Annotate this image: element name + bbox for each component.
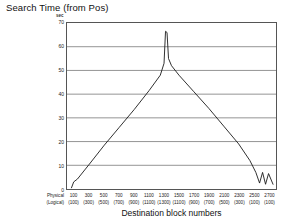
x-tick-logical: (300) [234,199,245,206]
x-tick-physical: 1100 [142,192,155,199]
x-tick-label: 100(100) [68,192,79,206]
x-tick-label: 1500(1100) [173,192,186,206]
x-tick-logical: (700) [113,199,124,206]
x-tick-logical: (100) [68,199,79,206]
x-tick-label: 300(300) [83,192,94,206]
y-axis-tick-labels: 010203040506070 [48,22,64,190]
x-axis-tick-labels: 100(100)300(300)500(500)700(700)900(900)… [66,192,277,208]
x-tick-label: 500(500) [98,192,109,206]
axis-row-header: Physical [8,192,64,199]
x-tick-label: 900(900) [128,192,139,206]
x-tick-logical: (1100) [173,199,186,206]
x-tick-physical: 2700 [264,192,275,199]
y-tick-label: 50 [50,67,64,73]
x-tick-physical: 100 [68,192,79,199]
x-tick-physical: 700 [113,192,124,199]
x-tick-label: 1700(900) [189,192,200,206]
x-tick-label: 700(700) [113,192,124,206]
x-tick-physical: 1700 [189,192,200,199]
x-tick-physical: 300 [83,192,94,199]
x-tick-physical: 2500 [249,192,260,199]
chart-root: Search Time (from Pos) sec 0102030405060… [0,0,288,224]
x-tick-logical: (700) [204,199,215,206]
x-tick-physical: 2100 [219,192,230,199]
y-tick-label: 20 [50,139,64,145]
x-tick-logical: (1300) [157,199,170,206]
x-tick-logical: (1100) [142,199,155,206]
x-tick-logical: (300) [83,199,94,206]
x-tick-label: 1300(1300) [157,192,170,206]
y-tick-label: 40 [50,91,64,97]
x-tick-logical: (900) [128,199,139,206]
axis-row-header: (Logical) [8,199,64,206]
x-tick-physical: 900 [128,192,139,199]
plot-area [66,22,277,190]
series-search-time [67,23,276,189]
x-tick-physical: 1300 [157,192,170,199]
x-tick-label: 1900(700) [204,192,215,206]
chart-title: Search Time (from Pos) [6,2,109,13]
x-tick-physical: 1500 [173,192,186,199]
x-tick-label: 1100(1100) [142,192,155,206]
y-axis-unit-label: sec [56,13,64,18]
x-tick-label: 2500(100) [249,192,260,206]
y-tick-label: 30 [50,115,64,121]
x-tick-logical: (900) [189,199,200,206]
x-axis-title: Destination block numbers [66,208,277,218]
y-tick-label: 10 [50,163,64,169]
x-tick-physical: 500 [98,192,109,199]
x-tick-logical: (100) [249,199,260,206]
axis-row-headers: Physical(Logical) [8,192,64,206]
x-tick-physical: 2300 [234,192,245,199]
x-tick-label: 2700(100) [264,192,275,206]
x-tick-logical: (500) [219,199,230,206]
x-tick-label: 2300(300) [234,192,245,206]
x-tick-logical: (100) [264,199,275,206]
x-tick-logical: (500) [98,199,109,206]
x-tick-physical: 1900 [204,192,215,199]
y-tick-label: 60 [50,43,64,49]
y-tick-label: 70 [50,19,64,25]
x-tick-label: 2100(500) [219,192,230,206]
